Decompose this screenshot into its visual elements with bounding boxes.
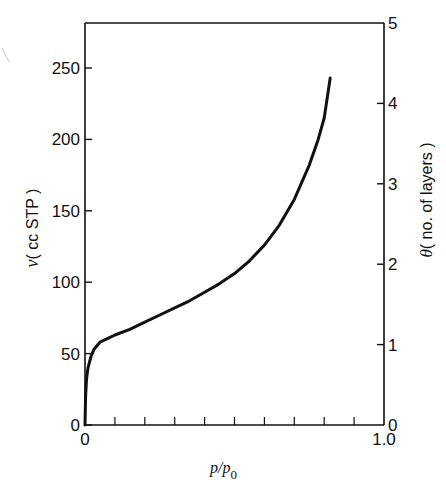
plot-frame [85,23,384,425]
isotherm-chart: 050100150200250 012345 0 1.0 p/p0 v( cc … [0,0,446,498]
y-tick-label: 50 [61,345,80,364]
stray-mark [2,48,9,62]
y2-tick-label: 3 [388,175,397,194]
y2-tick-label: 1 [388,336,397,355]
y2-axis-ticks: 012345 [377,14,397,435]
y-tick-label: 200 [52,130,80,149]
y-axis-title: v( cc STP ) [22,189,42,268]
y-tick-label: 250 [52,59,80,78]
y2-tick-label: 4 [388,94,397,113]
y-tick-label: 0 [71,416,80,435]
x-axis-title: p/p0 [209,459,237,482]
x-tick-label-0: 0 [80,430,89,449]
x-tick-label-1: 1.0 [372,430,396,449]
y2-tick-label: 2 [388,255,397,274]
y2-tick-label: 5 [388,14,397,33]
y-tick-label: 150 [52,202,80,221]
y-tick-label: 100 [52,273,80,292]
x-axis-ticks [115,417,354,425]
isotherm-curve [85,78,330,425]
y2-axis-title: θ( no. of layers ) [417,142,436,257]
